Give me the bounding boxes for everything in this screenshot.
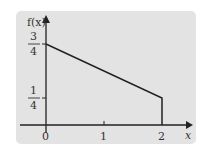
x-tick-label-0: 0 — [42, 130, 49, 143]
chart-plot: f(x) 3 4 1 4 0 1 2 x — [0, 0, 205, 154]
y-axis-label: f(x) — [27, 16, 46, 29]
x-tick-label-2: 2 — [158, 130, 165, 143]
x-axis-arrow-icon — [186, 121, 193, 129]
y-tick-label-1-4-num: 1 — [30, 84, 37, 97]
y-tick-label-1-4-den: 4 — [30, 99, 37, 112]
x-tick-label-1: 1 — [100, 130, 107, 143]
y-tick-label-3-4-den: 4 — [30, 45, 37, 58]
function-line — [46, 44, 162, 125]
x-axis-label: x — [185, 129, 192, 142]
y-tick-label-3-4-num: 3 — [30, 30, 37, 43]
